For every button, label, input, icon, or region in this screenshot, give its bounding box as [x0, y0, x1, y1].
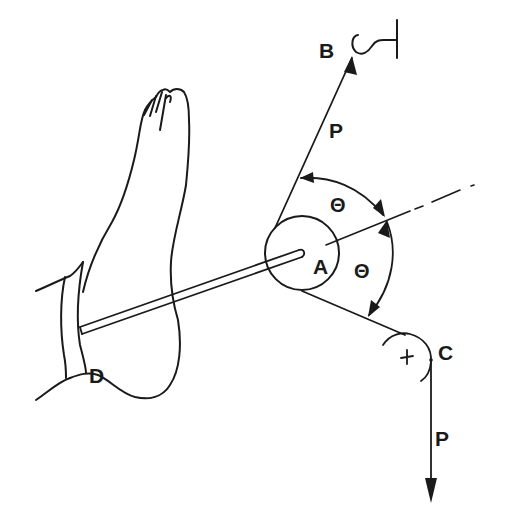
label-a: A	[313, 255, 328, 278]
angle-arc-lower	[368, 220, 393, 317]
hook-support-b	[352, 20, 397, 58]
label-angle-lower: Θ	[354, 260, 370, 282]
arrow-head-b-icon	[344, 56, 357, 75]
arrow-head-arc-upper-right-icon	[373, 199, 385, 217]
label-force-lower: P	[435, 427, 449, 450]
foot-outline	[36, 89, 189, 400]
cable-ac	[302, 291, 405, 335]
rod	[80, 250, 304, 334]
label-force-upper: P	[329, 119, 343, 142]
arrow-head-down-icon	[425, 478, 437, 503]
label-c: C	[438, 341, 453, 364]
label-d: D	[89, 364, 104, 387]
pulley-c-center-icon	[401, 350, 413, 364]
arrow-head-arc-upper-left-icon	[300, 172, 314, 183]
diagram-figure: B P Θ A Θ C P D	[0, 0, 526, 525]
pulley-c	[383, 333, 431, 381]
axis-line	[326, 185, 474, 245]
label-b: B	[319, 39, 334, 62]
label-angle-upper: Θ	[330, 194, 346, 216]
